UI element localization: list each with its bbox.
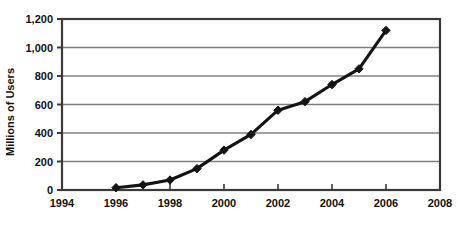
x-tick-label: 2002 [266, 197, 290, 209]
x-tick-label: 2008 [428, 197, 452, 209]
y-tick-label: 400 [35, 127, 53, 139]
chart-container: Millions of Users 02004006008001,0001,20… [0, 0, 458, 225]
y-axis-title-text: Millions of Users [4, 68, 16, 156]
y-axis-title: Millions of Users [4, 68, 16, 156]
x-tick-label: 1996 [104, 197, 128, 209]
y-tick-label: 1,000 [25, 42, 53, 54]
y-tick-label: 600 [35, 99, 53, 111]
x-tick-label: 2006 [374, 197, 398, 209]
chart-background [0, 0, 458, 225]
y-tick-label: 0 [47, 184, 53, 196]
x-tick-label: 2004 [320, 197, 345, 209]
x-tick-label: 1998 [158, 197, 182, 209]
line-chart: Millions of Users 02004006008001,0001,20… [0, 0, 458, 225]
y-tick-label: 200 [35, 156, 53, 168]
y-tick-label: 1,200 [25, 13, 53, 25]
y-tick-label: 800 [35, 70, 53, 82]
x-tick-label: 1994 [50, 197, 75, 209]
x-tick-label: 2000 [212, 197, 236, 209]
